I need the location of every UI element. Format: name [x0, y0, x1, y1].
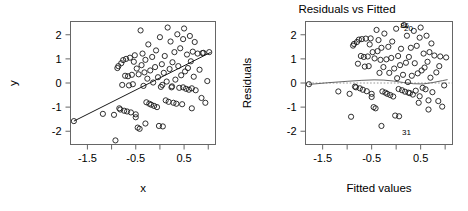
x-tick-label: 0.5: [413, 152, 428, 164]
data-point: [132, 53, 137, 58]
data-point: [145, 76, 150, 81]
data-point: [426, 107, 431, 112]
y-axis-tick-labels: -2-1012: [52, 29, 62, 137]
x-tick-label: -1.5: [78, 152, 97, 164]
data-point: [422, 65, 427, 70]
residuals-vs-fitted-svg: Residuals vs Fitted -1.5-0.50.5 -2-1012 …: [234, 0, 468, 211]
data-point: [150, 54, 155, 59]
data-point: [379, 45, 384, 50]
data-point: [384, 57, 389, 62]
x-axis-ticks: [323, 145, 446, 150]
data-point: [181, 26, 186, 31]
y-axis-ticks: [301, 35, 306, 131]
data-point: [408, 45, 413, 50]
data-point: [419, 68, 424, 73]
data-point: [414, 43, 419, 48]
data-point: [161, 70, 166, 75]
data-point: [425, 59, 430, 64]
data-point: [111, 112, 116, 117]
data-point: [153, 48, 158, 53]
data-point: [377, 70, 382, 75]
y-tick-label: -2: [52, 125, 62, 137]
data-point: [392, 66, 397, 71]
data-point: [184, 52, 189, 57]
data-point: [403, 60, 408, 65]
data-point: [372, 56, 377, 61]
data-point: [386, 44, 391, 49]
data-point: [185, 65, 190, 70]
plot-title: Residuals vs Fitted: [298, 3, 395, 15]
data-point: [100, 111, 105, 116]
x-axis-title: x: [140, 182, 146, 194]
data-point: [396, 86, 401, 91]
data-point: [355, 61, 360, 66]
y-axis-title: y: [7, 80, 19, 86]
data-point: [191, 74, 196, 79]
data-point: [160, 124, 165, 129]
data-point: [189, 106, 194, 111]
x-tick-label: 0.5: [176, 152, 191, 164]
data-point: [417, 35, 422, 40]
data-point: [182, 69, 187, 74]
data-point: [427, 50, 432, 55]
data-point: [432, 53, 437, 58]
x-axis-ticks: [87, 145, 208, 150]
data-point: [421, 51, 426, 56]
data-point: [134, 66, 139, 71]
panel-residuals-vs-fitted: Residuals vs Fitted -1.5-0.50.5 -2-1012 …: [234, 0, 468, 211]
data-point: [199, 95, 204, 100]
data-point: [187, 33, 192, 38]
data-point: [176, 64, 181, 69]
data-point: [398, 46, 403, 51]
data-point: [442, 83, 447, 88]
data-point: [170, 60, 175, 65]
data-point: [436, 98, 441, 103]
data-point: [197, 67, 202, 72]
x-axis-tick-labels: -1.5-0.50.5: [78, 152, 192, 164]
data-point: [400, 72, 405, 77]
data-point: [417, 94, 422, 99]
data-point: [409, 73, 414, 78]
y-tick-label: 0: [290, 77, 296, 89]
data-point: [131, 59, 136, 64]
data-point: [181, 37, 186, 42]
x-axis-title: Fitted values: [346, 182, 411, 194]
data-point: [71, 119, 76, 124]
data-point: [389, 55, 394, 60]
data-point: [438, 54, 443, 59]
y-tick-label: 2: [55, 29, 61, 41]
data-point: [382, 31, 387, 36]
data-point: [207, 50, 212, 55]
data-point: [429, 41, 434, 46]
data-point: [396, 53, 401, 58]
data-point: [416, 100, 421, 105]
y-tick-label: 1: [290, 53, 296, 65]
data-point: [152, 64, 157, 69]
y-tick-label: -2: [287, 125, 297, 137]
x-axis-tick-labels: -1.5-0.50.5: [313, 152, 428, 164]
data-point: [175, 32, 180, 37]
data-point: [426, 98, 431, 103]
data-point: [379, 123, 384, 128]
data-point: [376, 37, 381, 42]
data-point: [390, 39, 395, 44]
y-tick-label: 2: [290, 29, 296, 41]
data-point: [434, 70, 439, 75]
data-point: [192, 39, 197, 44]
data-point: [428, 75, 433, 80]
data-point: [387, 70, 392, 75]
data-point: [405, 79, 410, 84]
data-point: [205, 78, 210, 83]
outlier-label: 20: [404, 24, 413, 33]
data-point: [139, 63, 144, 68]
data-point: [394, 26, 399, 31]
data-point: [437, 64, 442, 69]
y-axis-tick-labels: -2-1012: [287, 29, 297, 137]
data-point: [178, 46, 183, 51]
data-point: [140, 51, 145, 56]
data-point: [381, 64, 386, 69]
scatter-xy-svg: -1.5-0.50.5 -2-1012 x y: [0, 0, 234, 211]
data-point: [165, 25, 170, 30]
data-point: [404, 33, 409, 38]
data-point: [167, 66, 172, 71]
